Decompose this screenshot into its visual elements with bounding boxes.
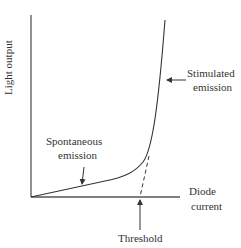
light-output-curve: [31, 20, 165, 197]
x-axis-label-line1: Diode: [189, 185, 216, 198]
threshold-label: Threshold: [118, 232, 163, 245]
y-axis-label: Light output: [2, 40, 15, 95]
threshold-extrapolation-dashed-line: [140, 156, 149, 197]
stimulated-label-line2: emission: [193, 81, 232, 94]
stimulated-label-line1: Stimulated: [187, 67, 235, 80]
spontaneous-label-line2: emission: [58, 149, 97, 162]
spontaneous-label-line1: Spontaneous: [46, 135, 102, 148]
x-axis-label-line2: current: [191, 200, 222, 213]
spontaneous-emission-arrow: [82, 167, 84, 184]
laser-diode-light-current-diagram: Light output Stimulated emission Spontan…: [0, 0, 241, 248]
